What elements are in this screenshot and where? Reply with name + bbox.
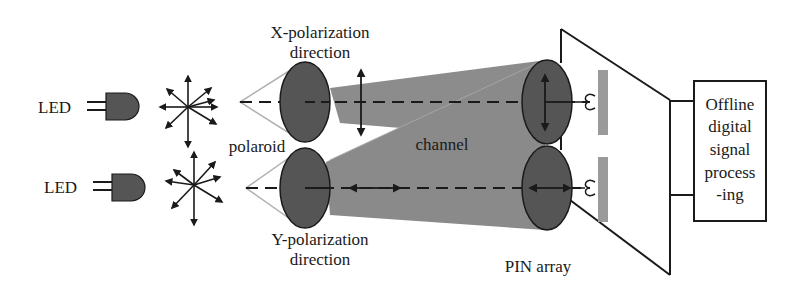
led-transmitter-2: LED	[44, 152, 222, 225]
x-polarization-label: X-polarization	[270, 23, 370, 42]
led-label-1: LED	[38, 98, 71, 117]
led-icon-1	[87, 93, 139, 120]
svg-text:digital: digital	[708, 117, 752, 136]
channel-label: channel	[416, 135, 469, 154]
pin-photodiodes	[572, 70, 608, 222]
svg-text:signal: signal	[710, 140, 751, 159]
svg-text:process: process	[705, 163, 756, 182]
led-label-2: LED	[44, 178, 77, 197]
polaroid-filters	[280, 62, 330, 228]
offline-dsp-block: Offline digital signal process -ing	[694, 81, 766, 221]
x-polarization-label-2: direction	[290, 43, 351, 62]
led-icon-2	[93, 174, 145, 201]
led-transmitter-1: LED	[38, 76, 217, 147]
polaroid-label: polaroid	[229, 137, 286, 156]
pin-photodiode-1	[572, 70, 608, 135]
receiver-panel	[561, 29, 670, 275]
unpolarized-light-icon-1	[160, 76, 217, 147]
svg-text:Offline: Offline	[706, 95, 755, 114]
pin-photodiode-2	[572, 157, 608, 222]
y-polarization-label: Y-polarization	[271, 230, 369, 249]
optical-communication-diagram: LED LED	[0, 0, 800, 289]
svg-text:-ing: -ing	[716, 185, 744, 204]
unpolarized-light-icon-2	[166, 152, 222, 225]
y-polarization-label-2: direction	[290, 250, 351, 269]
pin-array-label: PIN array	[505, 257, 572, 276]
